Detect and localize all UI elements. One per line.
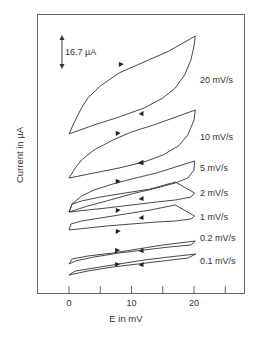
series-label: 5 mV/s <box>200 163 229 173</box>
x-axis-ticks <box>69 286 225 293</box>
arrow-down-icon <box>60 64 65 69</box>
forward-arrow-icon <box>116 208 121 213</box>
y-axis-label: Current in µA <box>14 126 25 183</box>
scan-rate-labels: 20 mV/s10 mV/s5 mV/s2 mV/s1 mV/s0.2 mV/s… <box>200 75 236 266</box>
x-tick-label: 20 <box>189 298 199 308</box>
loop-0-1-mV-s <box>69 254 196 275</box>
reverse-arrow-icon <box>139 262 144 267</box>
scan-direction-arrows <box>115 62 143 267</box>
loop-2-mV-s <box>69 182 195 212</box>
cyclic-voltammogram-chart: 01020 20 mV/s10 mV/s5 mV/s2 mV/s1 mV/s0.… <box>0 0 257 337</box>
scale-bar-label: 16.7 µA <box>65 47 96 57</box>
series-label: 0.2 mV/s <box>200 233 236 243</box>
forward-arrow-icon <box>116 229 121 234</box>
series-label: 2 mV/s <box>200 188 229 198</box>
loop-0-2-mV-s <box>69 241 195 264</box>
reverse-arrow-icon <box>139 215 144 220</box>
series-label: 20 mV/s <box>200 75 234 85</box>
loop-5-mV-s <box>69 161 195 212</box>
arrow-up-icon <box>60 35 65 40</box>
x-axis-label: E in mV <box>109 313 143 324</box>
forward-arrow-icon <box>116 179 121 184</box>
x-axis-tick-labels: 01020 <box>66 298 199 308</box>
forward-arrow-icon <box>116 131 121 136</box>
reverse-arrow-icon <box>139 111 144 116</box>
forward-arrow-icon <box>119 62 124 67</box>
reverse-arrow-icon <box>138 160 143 165</box>
loop-10-mV-s <box>69 110 195 178</box>
x-tick-label: 0 <box>66 298 71 308</box>
x-tick-label: 10 <box>126 298 136 308</box>
voltammogram-loops <box>69 36 196 275</box>
reverse-arrow-icon <box>139 196 144 201</box>
series-label: 10 mV/s <box>200 132 234 142</box>
series-label: 0.1 mV/s <box>200 256 236 266</box>
scale-bar: 16.7 µA <box>60 35 97 69</box>
loop-1-mV-s <box>69 205 195 230</box>
series-label: 1 mV/s <box>200 212 229 222</box>
